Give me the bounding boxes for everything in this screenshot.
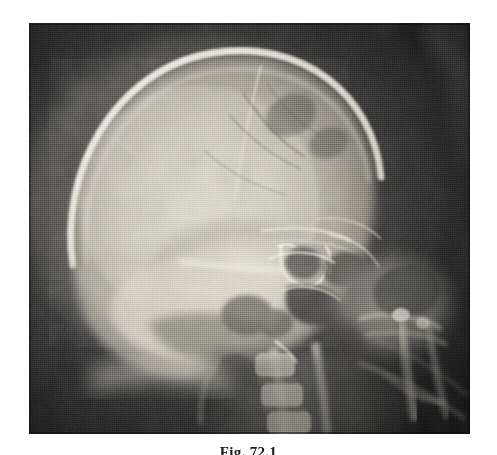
radiograph-image: [29, 23, 470, 434]
figure-caption: Fig. 72.1: [0, 444, 497, 455]
figure-caption-text: Fig. 72.1: [0, 444, 497, 455]
figure-page: Fig. 72.1: [0, 0, 497, 455]
radiograph-plate: [29, 23, 470, 434]
